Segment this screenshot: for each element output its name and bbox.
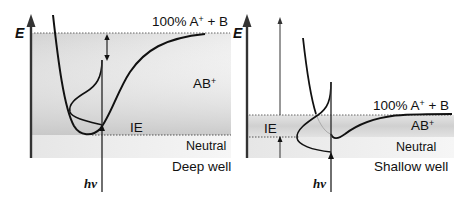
photon-label: hν [313, 176, 326, 192]
energy-axis-arrow-icon [243, 14, 252, 27]
energy-axis-label: E [233, 25, 242, 41]
energy-axis-label: E [15, 25, 24, 41]
ionization-energy-label: IE [130, 120, 143, 135]
asymptote-label: 100% A+ + B [152, 14, 228, 29]
well-type-label: Shallow well [374, 159, 448, 174]
neutral-label: Neutral [396, 140, 436, 154]
ionization-energy-label: IE [264, 121, 277, 136]
photon-label: hν [84, 176, 97, 192]
ion-potential-curve [303, 38, 316, 114]
ion-state-label: AB+ [411, 118, 434, 133]
energy-axis-arrow-icon [27, 14, 36, 27]
ion-state-label: AB+ [193, 76, 216, 91]
total-energy-arrow-icon [278, 17, 283, 24]
well-type-label: Deep well [172, 159, 231, 174]
neutral-label: Neutral [186, 139, 226, 153]
energy-diagram-figure: E 100% A+ + B AB+ IE Neutral Deep well h… [0, 0, 466, 202]
asymptote-label: 100% A+ + B [373, 98, 449, 113]
